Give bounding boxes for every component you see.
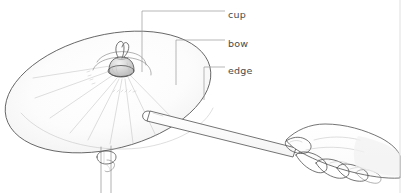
drumstick-shaft [147, 111, 296, 157]
cymbal-stand-group [97, 146, 116, 193]
diagram-canvas: cup bow edge [0, 0, 417, 193]
hand-group [285, 124, 400, 183]
cymbal-group [0, 11, 224, 172]
cymbal-edge [0, 11, 224, 172]
label-edge: edge [228, 65, 253, 76]
cymbal-diagram-figure: cup bow edge [0, 0, 417, 193]
label-bow: bow [228, 38, 248, 49]
drumstick-group [143, 111, 296, 157]
label-cup: cup [228, 9, 246, 20]
